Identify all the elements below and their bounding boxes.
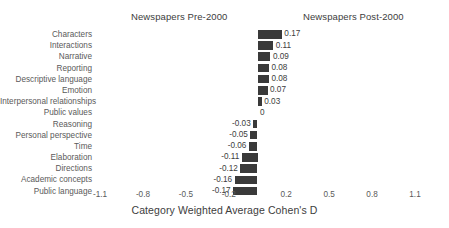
bar-value-label: -0.06 (228, 141, 247, 151)
bar-row: 0.17 (100, 29, 415, 40)
category-label: Interpersonal relationships (0, 96, 96, 107)
bar-value-label: 0.17 (284, 29, 300, 39)
bar-row: 0.08 (100, 74, 415, 85)
bar-row: 0.09 (100, 51, 415, 62)
bar-value-label: -0.03 (232, 119, 251, 129)
x-tick-label: -0.2 (222, 190, 236, 199)
bar (249, 142, 258, 151)
category-label: Elaboration (0, 152, 96, 163)
bar-row: -0.11 (100, 152, 415, 163)
x-tick-label: -0.5 (179, 190, 193, 199)
bar-value-label: 0.08 (271, 74, 287, 84)
bar (250, 131, 257, 140)
category-label: Descriptive language (0, 74, 96, 85)
bar (253, 120, 257, 129)
bar (258, 75, 269, 84)
category-label: Personal perspective (0, 130, 96, 141)
bar-value-label: -0.16 (213, 175, 232, 185)
bar-value-label: 0 (260, 108, 265, 118)
x-tick-label: -0.8 (136, 190, 150, 199)
x-tick-label: 0.5 (323, 190, 334, 199)
category-label: Reasoning (0, 119, 96, 130)
bar-row: 0.11 (100, 40, 415, 51)
category-label: Narrative (0, 51, 96, 62)
x-tick-label: 1.1 (409, 190, 420, 199)
bar (242, 153, 258, 162)
category-label: Academic concepts (0, 174, 96, 185)
bar (258, 97, 262, 106)
bar (235, 176, 258, 185)
panel-title-right: Newspapers Post-2000 (303, 11, 404, 22)
chart-figure: Newspapers Pre-2000 Newspapers Post-2000… (0, 0, 449, 228)
bar-row: -0.12 (100, 163, 415, 174)
x-tick-label: 0.8 (366, 190, 377, 199)
bar-value-label: 0.11 (276, 41, 291, 51)
bar (258, 86, 268, 95)
x-axis-ticks: -1.1-0.8-0.5-0.20.20.50.81.1 (100, 190, 415, 202)
category-label: Characters (0, 29, 96, 40)
bar-row: -0.05 (100, 130, 415, 141)
category-label: Public values (0, 107, 96, 118)
bar (258, 64, 269, 73)
bar (240, 164, 257, 173)
bar-row: -0.06 (100, 141, 415, 152)
bar-row: 0.08 (100, 63, 415, 74)
bar-value-label: -0.11 (221, 152, 239, 162)
panel-title-left: Newspapers Pre-2000 (131, 11, 227, 22)
bar-row: 0.03 (100, 96, 415, 107)
bar-row: -0.16 (100, 174, 415, 185)
category-label: Time (0, 141, 96, 152)
bar-row: 0 (100, 107, 415, 118)
category-label: Public language (0, 186, 96, 197)
category-label: Reporting (0, 63, 96, 74)
bar-value-label: 0.03 (264, 97, 280, 107)
category-axis-labels: CharactersInteractionsNarrativeReporting… (0, 29, 96, 187)
plot-area: 0.170.110.090.080.080.070.030-0.03-0.05-… (100, 29, 415, 187)
x-tick-label: 0.2 (280, 190, 291, 199)
category-label: Interactions (0, 40, 96, 51)
bar-value-label: -0.12 (219, 164, 238, 174)
bar (258, 41, 274, 50)
bar-value-label: -0.05 (229, 130, 248, 140)
bar-row: 0.07 (100, 85, 415, 96)
x-axis-title: Category Weighted Average Cohen's D (0, 204, 449, 216)
bar (258, 52, 271, 61)
x-tick-label: -1.1 (93, 190, 107, 199)
bar-value-label: 0.07 (270, 85, 286, 95)
bar-value-label: 0.08 (271, 63, 287, 73)
category-label: Emotion (0, 85, 96, 96)
category-label: Directions (0, 163, 96, 174)
bar (258, 30, 282, 39)
bar-row: -0.03 (100, 119, 415, 130)
bar-value-label: 0.09 (273, 52, 289, 62)
